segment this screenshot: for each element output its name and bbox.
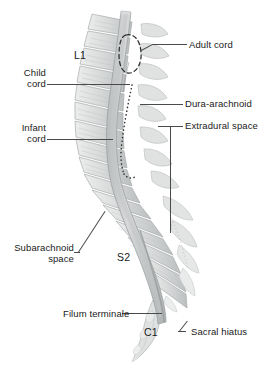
label-filum-terminale: Filum terminale: [63, 308, 129, 319]
label-subarachnoid-line2: space: [0, 253, 74, 264]
label-child-cord-line2: cord: [0, 78, 46, 89]
dura-arachnoid-leader: [140, 104, 183, 105]
spine-illustration: [0, 0, 274, 373]
label-child-cord-line1: Child: [0, 67, 46, 78]
label-level-s2: S2: [117, 251, 130, 263]
subarachnoid-space-leader-tail: [74, 252, 80, 253]
extradural-space-bracket: [170, 126, 171, 233]
label-extradural-space: Extradural space: [185, 120, 258, 131]
label-subarachnoid-line1: Subarachnoid: [0, 242, 74, 253]
label-level-l1: L1: [74, 49, 86, 61]
label-level-c1: C1: [144, 326, 158, 338]
child-cord-leader: [47, 84, 130, 85]
label-dura-arachnoid: Dura-arachnoid: [185, 98, 252, 109]
infant-cord-leader: [47, 139, 113, 140]
adult-cord-leader: [152, 44, 187, 45]
label-infant-cord-line1: Infant: [0, 122, 46, 133]
anatomical-figure: Adult cord Child cord Infant cord Dura-a…: [0, 0, 274, 373]
label-infant-cord-line2: cord: [0, 133, 46, 144]
label-adult-cord: Adult cord: [189, 39, 233, 50]
label-sacral-hiatus: Sacral hiatus: [191, 326, 247, 337]
sacral-hiatus-leader-tail: [178, 331, 186, 332]
